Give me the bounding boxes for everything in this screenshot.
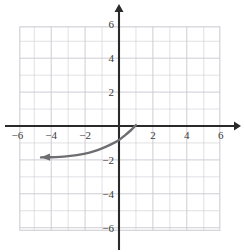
x-tick-label: 6 bbox=[218, 129, 224, 141]
y-tick-label: 4 bbox=[109, 52, 115, 64]
x-tick-label: 2 bbox=[150, 129, 156, 141]
y-tick-label: −2 bbox=[102, 154, 114, 166]
x-tick-label: 4 bbox=[184, 129, 190, 141]
x-tick-label: −4 bbox=[45, 129, 57, 141]
y-tick-label: 2 bbox=[109, 86, 115, 98]
y-tick-label: 6 bbox=[109, 18, 115, 30]
y-tick-label: −6 bbox=[102, 222, 114, 234]
x-tick-label: −2 bbox=[79, 129, 91, 141]
y-tick-label: −4 bbox=[102, 188, 114, 200]
coordinate-plane-figure: −6−4−2246 642−2−4−6 bbox=[0, 0, 245, 252]
x-tick-label: −6 bbox=[11, 129, 23, 141]
